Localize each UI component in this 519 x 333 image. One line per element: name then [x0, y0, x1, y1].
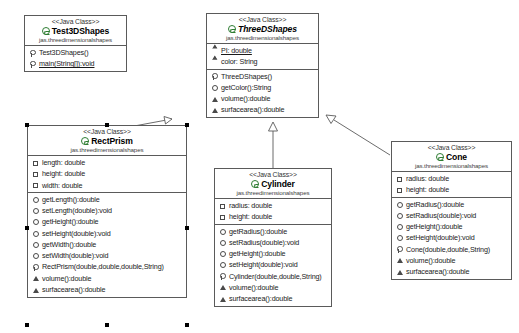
generalization-cone-threedshapes	[326, 115, 390, 155]
method-row[interactable]: getWidth():double	[28, 239, 186, 250]
attributes-compartment: radius: double height: double	[392, 172, 511, 198]
method-row[interactable]: getLength():double	[28, 194, 186, 205]
attributes-compartment: length: double height: double width: dou…	[28, 156, 186, 193]
method-row[interactable]: Cylinder(double,double,String)	[215, 271, 331, 282]
class-header: <<Java Class>> Test3DShapes jas.threedim…	[25, 16, 126, 46]
class-name: ThreeDShapes	[209, 24, 316, 34]
method-row[interactable]: RectPrism(double,double,double,String)	[28, 262, 186, 273]
attribute-row[interactable]: length: double	[28, 157, 186, 168]
public-visibility-icon	[31, 195, 40, 204]
java-class-icon	[42, 27, 50, 35]
method-row[interactable]: volume():double	[392, 255, 511, 266]
constructor-marker-icon	[210, 72, 219, 81]
selection-handle-e[interactable]	[185, 226, 189, 230]
method-row[interactable]: setHeight(double):void	[28, 228, 186, 239]
method-row[interactable]: setRadius(double):void	[215, 237, 331, 248]
public-visibility-icon	[31, 218, 40, 227]
selection-handle-s[interactable]	[105, 323, 109, 327]
abstract-method-icon	[395, 268, 404, 277]
abstract-method-icon	[218, 295, 227, 304]
attribute-row[interactable]: height: double	[215, 212, 331, 223]
method-row[interactable]: getRadius():double	[392, 199, 511, 210]
class-name: Test3DShapes	[27, 26, 124, 36]
public-visibility-icon	[395, 200, 404, 209]
class-stereotype: <<Java Class>>	[394, 144, 509, 152]
java-class-icon	[436, 153, 444, 161]
public-visibility-icon	[218, 261, 227, 270]
method-row[interactable]: surfacearea():double	[215, 294, 331, 305]
method-row[interactable]: getRadius():double	[215, 226, 331, 237]
private-visibility-icon	[218, 202, 227, 211]
attribute-row[interactable]: radius: double	[392, 173, 511, 184]
method-row[interactable]: setHeight(double):void	[215, 260, 331, 271]
attributes-compartment: radius: double height: double	[215, 199, 331, 225]
generalization-cylinder-threedshapes	[269, 122, 278, 168]
protected-visibility-icon	[210, 58, 219, 67]
method-row[interactable]: setRadius(double):void	[392, 210, 511, 221]
class-box-rectprism[interactable]: <<Java Class>> RectPrism jas.threedimens…	[27, 125, 187, 298]
attribute-row[interactable]: color: String	[207, 57, 318, 68]
attribute-row[interactable]: PI: double	[207, 45, 318, 56]
selection-handle-n[interactable]	[105, 123, 109, 127]
method-row[interactable]: volume():double	[28, 273, 186, 284]
method-row[interactable]: surfacearea():double	[207, 105, 318, 116]
private-visibility-icon	[218, 213, 227, 222]
attribute-row[interactable]: height: double	[28, 169, 186, 180]
method-row[interactable]: getColor():String	[207, 82, 318, 93]
abstract-method-icon	[31, 274, 40, 283]
selection-handle-nw[interactable]	[25, 123, 29, 127]
public-visibility-icon	[31, 240, 40, 249]
class-box-threedshapes[interactable]: <<Java Class>> ThreeDShapes jas.threedim…	[206, 13, 319, 118]
class-header: <<Java Class>> RectPrism jas.threedimens…	[28, 126, 186, 156]
method-row[interactable]: getHeight():double	[215, 249, 331, 260]
attribute-row[interactable]: width: double	[28, 180, 186, 191]
java-class-icon	[81, 137, 89, 145]
attribute-row[interactable]: radius: double	[215, 200, 331, 211]
class-box-cone[interactable]: <<Java Class>> Cone jas.threedimensional…	[391, 141, 512, 280]
class-header: <<Java Class>> Cone jas.threedimensional…	[392, 142, 511, 172]
method-row[interactable]: setWidth(double):void	[28, 251, 186, 262]
class-package: jas.threedimensionalshapes	[217, 189, 329, 196]
method-row[interactable]: volume():double	[215, 282, 331, 293]
selection-handle-ne[interactable]	[185, 123, 189, 127]
method-row[interactable]: Test3DShapes()	[25, 47, 126, 58]
selection-handle-sw[interactable]	[25, 323, 29, 327]
class-name: RectPrism	[30, 136, 184, 146]
selection-handle-se[interactable]	[185, 323, 189, 327]
class-box-test3dshapes[interactable]: <<Java Class>> Test3DShapes jas.threedim…	[24, 15, 127, 72]
class-stereotype: <<Java Class>>	[27, 18, 124, 26]
method-row[interactable]: main(String[]):void	[25, 59, 126, 70]
class-package: jas.threedimensionalshapes	[27, 36, 124, 43]
method-row[interactable]: setLength(double):void	[28, 206, 186, 217]
abstract-method-icon	[210, 106, 219, 115]
method-row[interactable]: getHeight():double	[28, 217, 186, 228]
class-stereotype: <<Java Class>>	[209, 16, 316, 24]
private-visibility-icon	[31, 159, 40, 168]
private-visibility-icon	[31, 181, 40, 190]
method-row[interactable]: surfacearea():double	[28, 284, 186, 295]
abstract-method-icon	[218, 283, 227, 292]
method-row[interactable]: setHeight(double):void	[392, 233, 511, 244]
abstract-method-icon	[395, 256, 404, 265]
method-row[interactable]: getHeight():double	[392, 222, 511, 233]
public-visibility-icon	[31, 207, 40, 216]
method-row[interactable]: surfacearea():double	[392, 267, 511, 278]
java-class-icon	[228, 25, 236, 33]
abstract-method-icon	[210, 95, 219, 104]
class-stereotype: <<Java Class>>	[30, 128, 184, 136]
attribute-row[interactable]: height: double	[392, 185, 511, 196]
method-row[interactable]: ThreeDShapes()	[207, 71, 318, 82]
selection-handle-w[interactable]	[25, 226, 29, 230]
class-box-cylinder[interactable]: <<Java Class>> Cylinder jas.threedimensi…	[214, 168, 332, 307]
class-stereotype: <<Java Class>>	[217, 171, 329, 179]
method-row[interactable]: volume():double	[207, 94, 318, 105]
attributes-compartment: PI: double color: String	[207, 44, 318, 70]
public-visibility-icon	[395, 223, 404, 232]
class-name: Cone	[394, 152, 509, 162]
constructor-marker-icon	[31, 263, 40, 272]
public-visibility-icon	[31, 229, 40, 238]
methods-compartment: Test3DShapes() main(String[]):void	[25, 46, 126, 71]
method-row[interactable]: Cone(double,double,String)	[392, 244, 511, 255]
java-class-icon	[251, 180, 259, 188]
public-visibility-icon	[210, 83, 219, 92]
